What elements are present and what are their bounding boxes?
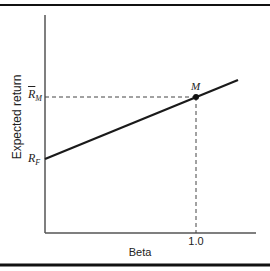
rm-sub: M — [35, 94, 42, 103]
chart-figure: Expected return RM RF M 1.0 Beta — [0, 0, 270, 271]
security-market-line — [45, 80, 238, 159]
rm-tick-label: RM — [28, 88, 42, 103]
point-m-label: M — [191, 81, 200, 92]
x-tick-label: 1.0 — [186, 236, 206, 247]
x-axis-label: Beta — [125, 247, 155, 258]
chart-svg — [0, 0, 270, 271]
rf-sub: F — [35, 158, 40, 167]
market-point-m — [193, 94, 199, 100]
rf-tick-label: RF — [28, 152, 40, 167]
y-axis-label: Expected return — [10, 67, 24, 167]
